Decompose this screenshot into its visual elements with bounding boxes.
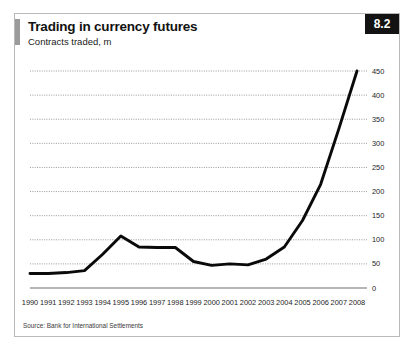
x-axis-tick-label: 2002	[240, 298, 256, 307]
x-axis-tick-label: 1991	[40, 298, 56, 307]
data-series	[30, 71, 357, 274]
y-axis-tick-label: 300	[372, 139, 384, 148]
x-axis-tick-label: 1992	[58, 298, 74, 307]
series-line	[30, 71, 357, 274]
line-chart: 050100150200250300350400450 199019911992…	[15, 14, 401, 338]
x-axis-tick-label: 2007	[331, 298, 347, 307]
y-axis-tick-label: 200	[372, 187, 384, 196]
x-axis-tick-label: 1997	[149, 298, 165, 307]
y-axis-tick-label: 100	[372, 235, 384, 244]
y-axis-tick-label: 400	[372, 91, 384, 100]
x-axis-tick-label: 2004	[276, 298, 292, 307]
x-axis-tick-label: 1996	[131, 298, 147, 307]
y-axis-tick-labels: 050100150200250300350400450	[372, 67, 384, 293]
y-axis-tick-label: 0	[372, 284, 376, 293]
x-axis-tick-label: 1995	[113, 298, 129, 307]
x-axis-tick-labels: 1990199119921993199419951996199719981999…	[22, 298, 365, 307]
x-axis-tick-label: 1994	[94, 298, 110, 307]
y-axis-tick-label: 350	[372, 115, 384, 124]
source-note: Source: Bank for International Settlemen…	[23, 322, 143, 329]
x-axis-tick-label: 2000	[203, 298, 219, 307]
chart-plot-area: 050100150200250300350400450 199019911992…	[15, 14, 399, 336]
chart-card: Trading in currency futures Contracts tr…	[14, 13, 400, 337]
x-axis-tick-label: 1990	[22, 298, 38, 307]
x-axis-tick-label: 2006	[312, 298, 328, 307]
x-axis-tick-label: 2003	[258, 298, 274, 307]
x-axis-tick-label: 2005	[294, 298, 310, 307]
x-axis-tick-label: 2008	[349, 298, 365, 307]
y-axis-tick-label: 450	[372, 67, 384, 76]
x-axis-tick-label: 1993	[76, 298, 92, 307]
gridlines	[30, 71, 367, 288]
y-axis-tick-label: 50	[372, 259, 380, 268]
x-axis-tick-label: 2001	[222, 298, 238, 307]
x-axis-tick-label: 1998	[167, 298, 183, 307]
y-axis-tick-label: 250	[372, 163, 384, 172]
y-axis-tick-label: 150	[372, 211, 384, 220]
x-axis-tick-label: 1999	[185, 298, 201, 307]
